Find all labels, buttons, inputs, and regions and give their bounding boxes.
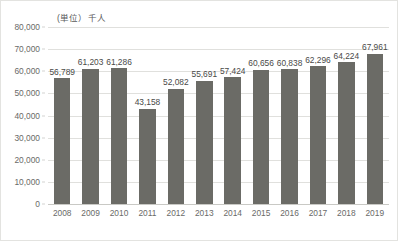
- x-axis-tick-label: 2017: [309, 208, 328, 218]
- bar[interactable]: [111, 68, 127, 204]
- bar[interactable]: [338, 62, 354, 204]
- bar-slot[interactable]: 57,424: [224, 27, 240, 204]
- y-axis-tick-mark: [42, 204, 45, 205]
- y-axis-tick-mark: [42, 49, 45, 50]
- bar[interactable]: [139, 109, 155, 204]
- bar-slot[interactable]: 64,224: [338, 27, 354, 204]
- gridline: [48, 204, 389, 205]
- y-axis-tick-label: 10,000: [14, 177, 40, 187]
- y-axis-tick-mark: [42, 115, 45, 116]
- y-axis-tick-mark: [42, 159, 45, 160]
- x-axis-tick-label: 2012: [167, 208, 186, 218]
- bar-slot[interactable]: 43,158: [139, 27, 155, 204]
- bar-value-label: 61,286: [106, 58, 132, 66]
- x-axis-tick-label: 2018: [337, 208, 356, 218]
- x-axis-tick-label: 2008: [53, 208, 72, 218]
- x-axis: 2008200920102011201220132014201520162017…: [48, 208, 389, 224]
- y-axis-tick-mark: [42, 137, 45, 138]
- plot-area: 56,78961,20361,28643,15852,08255,69157,4…: [48, 27, 389, 204]
- y-axis-tick-mark: [42, 181, 45, 182]
- bar[interactable]: [54, 78, 70, 204]
- unit-caption: (単位）千人: [57, 11, 106, 23]
- bar-value-label: 62,296: [305, 56, 331, 64]
- bar-chart: (単位）千人 80,00070,00060,00050,00040,00030,…: [0, 0, 398, 241]
- x-axis-tick-label: 2015: [252, 208, 271, 218]
- y-axis-tick-label: 30,000: [14, 133, 40, 143]
- y-axis-tick-mark: [42, 27, 45, 28]
- y-axis-tick-label: 50,000: [14, 88, 40, 98]
- y-axis-tick-label: 40,000: [14, 111, 40, 121]
- bar-slot[interactable]: 52,082: [168, 27, 184, 204]
- bar-value-label: 60,838: [277, 59, 303, 67]
- bar-value-label: 43,158: [135, 98, 161, 106]
- bar-slot[interactable]: 61,203: [82, 27, 98, 204]
- bar-slot[interactable]: 60,838: [281, 27, 297, 204]
- y-axis-tick-mark: [42, 71, 45, 72]
- bar-slot[interactable]: 62,296: [310, 27, 326, 204]
- y-axis-tick-label: 60,000: [14, 66, 40, 76]
- bar-value-label: 61,203: [78, 58, 104, 66]
- bar[interactable]: [281, 69, 297, 204]
- x-axis-tick-label: 2010: [110, 208, 129, 218]
- x-axis-tick-label: 2016: [280, 208, 299, 218]
- bar-slot[interactable]: 60,656: [253, 27, 269, 204]
- y-axis-tick-mark: [42, 93, 45, 94]
- bar[interactable]: [367, 54, 383, 204]
- bar-value-label: 52,082: [163, 78, 189, 86]
- bar-slot[interactable]: 67,961: [367, 27, 383, 204]
- bar-value-label: 56,789: [49, 68, 75, 76]
- y-axis: 80,00070,00060,00050,00040,00030,00020,0…: [1, 27, 45, 204]
- bar-value-label: 55,691: [191, 70, 217, 78]
- bar-value-label: 60,656: [248, 59, 274, 67]
- bar-slot[interactable]: 55,691: [196, 27, 212, 204]
- bar-value-label: 64,224: [334, 52, 360, 60]
- x-axis-tick-label: 2014: [223, 208, 242, 218]
- bar[interactable]: [82, 69, 98, 204]
- x-axis-tick-label: 2009: [81, 208, 100, 218]
- y-axis-tick-label: 80,000: [14, 22, 40, 32]
- bar[interactable]: [224, 77, 240, 204]
- x-axis-tick-label: 2019: [365, 208, 384, 218]
- bar[interactable]: [310, 66, 326, 204]
- bar-value-label: 67,961: [362, 43, 388, 51]
- bar[interactable]: [196, 81, 212, 204]
- x-axis-tick-label: 2013: [195, 208, 214, 218]
- y-axis-tick-label: 0: [35, 199, 40, 209]
- y-axis-tick-label: 20,000: [14, 155, 40, 165]
- bar-slot[interactable]: 56,789: [54, 27, 70, 204]
- bar-value-label: 57,424: [220, 67, 246, 75]
- bar[interactable]: [253, 70, 269, 204]
- y-axis-tick-label: 70,000: [14, 44, 40, 54]
- bar[interactable]: [168, 89, 184, 204]
- bar-slot[interactable]: 61,286: [111, 27, 127, 204]
- x-axis-tick-label: 2011: [138, 208, 156, 218]
